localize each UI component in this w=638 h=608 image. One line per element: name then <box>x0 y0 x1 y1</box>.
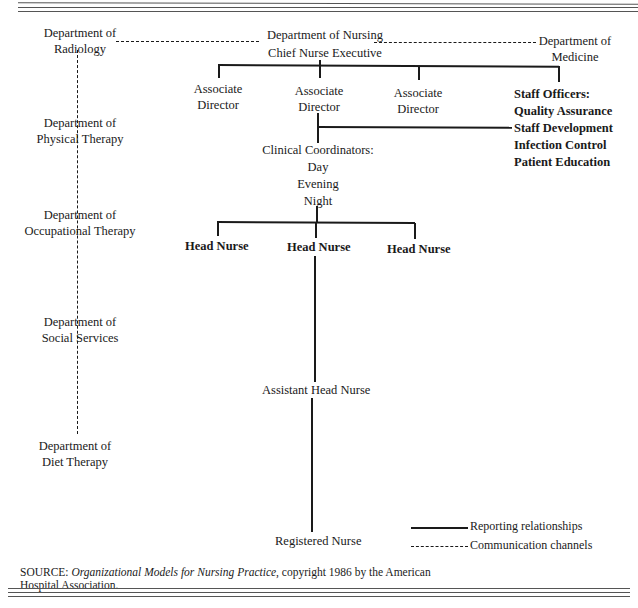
shift-night: Night <box>252 193 384 210</box>
dept-social-services: Department of Social Services <box>25 314 135 346</box>
comm-line-nursing-medicine <box>374 42 536 43</box>
report-line-coordinators-down <box>316 206 318 222</box>
dept-physical-therapy: Department of Physical Therapy <box>25 115 135 147</box>
report-line-hn2 <box>315 222 317 238</box>
staff-officers: Staff Officers: Quality Assurance Staff … <box>514 86 613 171</box>
staff-officer-item: Infection Control <box>514 137 613 154</box>
dept-nursing: Department of Nursing Chief Nurse Execut… <box>255 27 395 61</box>
bottom-rule-3 <box>8 596 630 597</box>
staff-officer-item: Quality Assurance <box>514 103 613 120</box>
report-line-hn1 <box>217 221 219 236</box>
dept-diet-therapy: Department of Diet Therapy <box>25 438 125 470</box>
shift-day: Day <box>252 159 384 176</box>
report-line-hn-to-ahn <box>314 256 316 382</box>
report-line-ahn-to-rn <box>311 398 313 532</box>
legend-solid-line <box>411 527 468 529</box>
legend-communication: Communication channels <box>470 538 592 553</box>
dept-radiology: Department of Radiology <box>30 25 130 57</box>
bottom-rule-2 <box>8 592 630 593</box>
head-nurse-2: Head Nurse <box>287 239 351 255</box>
shift-evening: Evening <box>252 176 384 193</box>
report-line-directors-bar <box>218 64 559 68</box>
dept-medicine: Department of Medicine <box>520 33 630 65</box>
comm-line-left-vertical <box>77 50 78 434</box>
report-line-staff-development <box>317 126 512 129</box>
head-nurse-3: Head Nurse <box>387 241 451 257</box>
dept-occupational-therapy: Department of Occupational Therapy <box>15 207 145 239</box>
staff-officer-item: Staff Development <box>514 120 613 137</box>
top-rule-1 <box>18 2 638 5</box>
report-line-ad1 <box>218 64 220 78</box>
clinical-coordinators-heading: Clinical Coordinators: <box>252 142 384 159</box>
associate-director-1: Associate Director <box>183 81 253 113</box>
legend-dashed-line <box>411 546 468 547</box>
clinical-coordinators: Clinical Coordinators: Day Evening Night <box>252 142 384 210</box>
top-rule-2 <box>18 7 638 8</box>
report-line-ad3 <box>418 66 420 80</box>
head-nurse-1: Head Nurse <box>185 238 249 254</box>
staff-officer-item: Patient Education <box>514 154 613 171</box>
top-rule-3 <box>18 11 638 12</box>
assistant-head-nurse: Assistant Head Nurse <box>262 382 370 398</box>
registered-nurse: Registered Nurse <box>275 533 361 549</box>
bottom-rule-1 <box>8 588 630 589</box>
report-line-ad2 <box>319 64 321 78</box>
report-line-hn3 <box>414 223 416 239</box>
associate-director-2: Associate Director <box>284 83 354 115</box>
source-title: Organizational Models for Nursing Practi… <box>71 566 276 578</box>
associate-director-3: Associate Director <box>383 85 453 117</box>
staff-officers-heading: Staff Officers: <box>514 86 613 103</box>
legend-reporting: Reporting relationships <box>470 519 582 534</box>
comm-line-radiology-nursing <box>116 41 259 42</box>
report-line-staff <box>558 66 560 82</box>
